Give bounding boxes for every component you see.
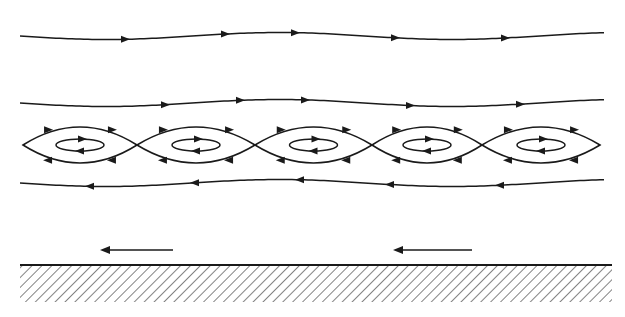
wall-hatching — [20, 265, 612, 302]
arrowhead-icon — [100, 246, 110, 254]
arrowhead-icon — [85, 183, 94, 190]
arrowhead-icon — [309, 148, 318, 155]
separatrix — [23, 127, 137, 163]
vortex-cell — [255, 126, 372, 164]
arrowhead-icon — [78, 136, 87, 143]
arrowhead-icon — [312, 136, 321, 143]
arrowhead-icon — [495, 182, 504, 189]
arrowhead-icon — [539, 136, 548, 143]
upper-streamlines — [20, 29, 604, 109]
arrowhead-icon — [291, 29, 300, 36]
arrowhead-icon — [221, 31, 230, 38]
moving-wall — [20, 265, 612, 302]
arrowhead-icon — [406, 102, 415, 109]
arrowhead-icon — [295, 176, 304, 183]
arrowhead-icon — [385, 181, 394, 188]
arrowhead-icon — [422, 148, 431, 155]
arrowhead-icon — [194, 136, 203, 143]
arrowhead-icon — [393, 246, 403, 254]
arrowhead-icon — [75, 148, 84, 155]
separatrix — [482, 127, 600, 163]
arrowhead-icon — [301, 96, 310, 103]
vortex-cell — [482, 126, 600, 164]
vortex-cell — [23, 126, 137, 164]
arrowhead-icon — [391, 34, 400, 41]
streamline — [20, 180, 604, 187]
arrowhead-icon — [190, 179, 199, 186]
separatrix — [137, 127, 255, 163]
lower-streamlines — [20, 176, 604, 190]
flow-diagram — [0, 0, 625, 317]
arrowhead-icon — [516, 101, 525, 108]
arrowhead-icon — [191, 148, 200, 155]
arrowhead-icon — [236, 97, 245, 104]
separatrix — [255, 127, 372, 163]
arrowhead-icon — [425, 136, 434, 143]
separatrix — [372, 127, 482, 163]
arrowhead-icon — [536, 148, 545, 155]
streamline — [20, 33, 604, 40]
vortex-cell — [137, 126, 255, 164]
arrowhead-icon — [121, 36, 130, 43]
wall-velocity-arrows — [100, 246, 472, 254]
cat-eye-vortices — [23, 126, 600, 164]
arrowhead-icon — [501, 34, 510, 41]
arrowhead-icon — [161, 101, 170, 108]
vortex-cell — [372, 126, 482, 164]
